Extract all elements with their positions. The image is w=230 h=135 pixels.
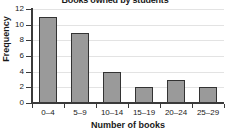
gridline — [32, 9, 224, 10]
x-axis-tick-label: 10–14 — [95, 108, 129, 117]
y-axis-tick — [26, 9, 31, 10]
x-axis-tick-label: 5–9 — [63, 108, 97, 117]
y-axis-tick-label: 8 — [8, 36, 24, 44]
y-axis-tick-label: 0 — [8, 99, 24, 107]
y-axis-tick-label: 12 — [8, 5, 24, 13]
chart-title: Books owned by students — [0, 0, 230, 5]
y-axis-tick — [26, 40, 31, 41]
y-axis-tick-label: 10 — [8, 21, 24, 29]
x-axis-tick-label: 15–19 — [127, 108, 161, 117]
gridline — [32, 40, 224, 41]
bar — [199, 87, 217, 103]
y-axis-tick — [26, 25, 31, 26]
bar — [103, 72, 121, 103]
y-axis-tick-label: 6 — [8, 52, 24, 60]
bar — [135, 87, 153, 103]
gridline — [32, 56, 224, 57]
gridline — [32, 87, 224, 88]
gridline — [32, 72, 224, 73]
x-axis-tick-label: 25–29 — [191, 108, 225, 117]
y-axis-line — [31, 8, 33, 104]
plot-area — [32, 9, 224, 103]
x-axis-tick-label: 20–24 — [159, 108, 193, 117]
bar — [39, 17, 57, 103]
y-axis-tick-label: 2 — [8, 83, 24, 91]
y-axis-tick-label: 4 — [8, 68, 24, 76]
bar — [167, 80, 185, 103]
bar — [71, 33, 89, 103]
x-axis-tick-label: 0–4 — [31, 108, 65, 117]
y-axis-tick — [26, 56, 31, 57]
y-axis-tick — [26, 87, 31, 88]
y-axis-tick — [26, 103, 31, 104]
chart-figure: Books owned by students Frequency 024681… — [0, 0, 230, 135]
gridline — [32, 25, 224, 26]
y-axis-tick — [26, 72, 31, 73]
x-axis-title: Number of books — [32, 120, 224, 130]
